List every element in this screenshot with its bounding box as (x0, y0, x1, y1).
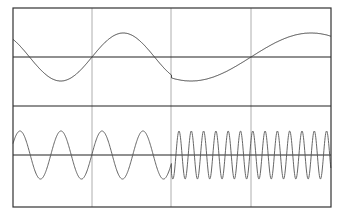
plot-background (0, 0, 339, 220)
waveform-plot (0, 0, 339, 220)
